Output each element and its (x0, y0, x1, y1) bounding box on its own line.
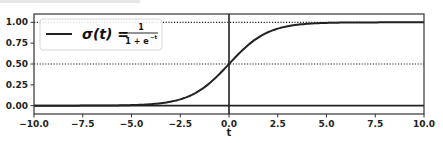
legend-denominator: 1 + e (125, 37, 149, 46)
x-tick-label: −7.5 (71, 119, 94, 129)
x-axis-label: t (227, 127, 232, 138)
legend-numerator: 1 (138, 23, 144, 32)
x-tick-label: −10.0 (19, 119, 49, 129)
y-tick-label: 0.00 (6, 101, 28, 111)
y-tick-label: 0.75 (6, 38, 28, 48)
legend-exponent: −t (150, 34, 158, 40)
y-tick-label: 1.00 (6, 17, 28, 27)
x-tick-label: −5.0 (120, 119, 143, 129)
x-tick-label: 5.0 (319, 119, 335, 129)
y-axis-ticks: 0.000.250.500.751.00 (6, 17, 34, 110)
sigmoid-chart: −10.0−7.5−5.0−2.50.02.55.07.510.0 0.000.… (0, 0, 443, 143)
y-tick-label: 0.25 (6, 80, 28, 90)
legend: σ(t) = 1 1 + e −t (40, 19, 162, 50)
x-tick-label: −2.5 (169, 119, 192, 129)
x-tick-label: 2.5 (270, 119, 286, 129)
x-tick-label: 7.5 (367, 119, 383, 129)
x-tick-label: 10.0 (413, 119, 435, 129)
legend-label: σ(t) = (82, 26, 129, 42)
y-tick-label: 0.50 (6, 59, 28, 69)
